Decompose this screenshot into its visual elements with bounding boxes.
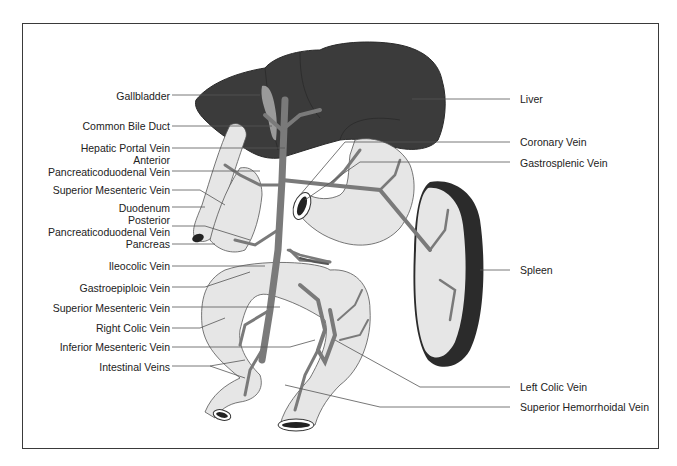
label-duodenum: Duodenum — [119, 202, 170, 214]
label-superior-mesenteric-vein-lower: Superior Mesenteric Vein — [53, 302, 170, 314]
stomach-shape — [290, 139, 414, 245]
label-posterior-pancreaticoduodenal-vein-line1: Posterior — [128, 214, 170, 226]
label-intestinal-veins: Intestinal Veins — [99, 361, 170, 373]
label-common-bile-duct: Common Bile Duct — [82, 120, 170, 132]
label-spleen: Spleen — [520, 264, 553, 276]
label-gastrosplenic-vein: Gastrosplenic Vein — [520, 157, 608, 169]
label-hepatic-portal-vein: Hepatic Portal Vein — [81, 142, 170, 154]
label-gastroepiploic-vein: Gastroepiploic Vein — [80, 282, 170, 294]
label-posterior-pancreaticoduodenal-vein-line2: Pancreaticoduodenal Vein — [48, 226, 170, 238]
label-gallbladder: Gallbladder — [116, 90, 170, 102]
label-ileocolic-vein: Ileocolic Vein — [109, 260, 170, 272]
label-superior-mesenteric-vein-upper: Superior Mesenteric Vein — [53, 184, 170, 196]
label-inferior-mesenteric-vein: Inferior Mesenteric Vein — [60, 341, 170, 353]
label-anterior-pancreaticoduodenal-vein-line2: Pancreaticoduodenal Vein — [48, 166, 170, 178]
label-coronary-vein: Coronary Vein — [520, 136, 587, 148]
label-liver: Liver — [520, 93, 543, 105]
label-right-colic-vein: Right Colic Vein — [96, 322, 170, 334]
label-superior-hemorrhoidal-vein: Superior Hemorrhoidal Vein — [520, 401, 649, 413]
label-anterior-pancreaticoduodenal-vein-line1: Anterior — [133, 154, 170, 166]
label-left-colic-vein: Left Colic Vein — [520, 381, 587, 393]
label-pancreas: Pancreas — [126, 238, 170, 250]
